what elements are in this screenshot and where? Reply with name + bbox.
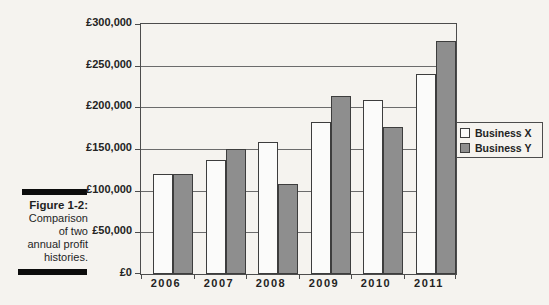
legend-label: Business Y — [475, 142, 531, 154]
legend-swatch-business-y — [460, 143, 470, 153]
caption-rule-bottom — [18, 269, 87, 275]
plot-area — [140, 23, 457, 275]
caption-line: Comparison — [0, 212, 88, 225]
y-tick-label: £0 — [120, 266, 132, 278]
caption-line: annual profit — [0, 238, 88, 251]
bar-business-x-2011 — [416, 74, 436, 274]
y-tick-mark — [135, 107, 141, 108]
bar-business-y-2006 — [173, 174, 193, 274]
caption-line: of two — [0, 225, 88, 238]
legend-label: Business X — [475, 127, 532, 139]
y-tick-mark — [135, 191, 141, 192]
y-tick-label: £300,000 — [86, 16, 132, 28]
bar-business-y-2010 — [383, 127, 403, 274]
bar-business-y-2008 — [278, 184, 298, 274]
y-tick-label: £50,000 — [92, 224, 132, 236]
bar-business-x-2010 — [363, 100, 383, 274]
x-tick-label: 2011 — [398, 277, 460, 289]
legend-item-business-y: Business Y — [460, 140, 539, 155]
bar-business-x-2008 — [258, 142, 278, 274]
y-tick-label: £250,000 — [86, 58, 132, 70]
y-tick-mark — [135, 273, 141, 274]
bar-business-x-2006 — [153, 174, 173, 274]
y-tick-mark — [135, 66, 141, 67]
y-tick-mark — [135, 232, 141, 233]
caption-line: histories. — [0, 251, 88, 264]
legend-swatch-business-x — [460, 128, 470, 138]
y-tick-label: £100,000 — [86, 183, 132, 195]
scanned-figure-page: Figure 1-2: Comparison of two annual pro… — [0, 0, 549, 305]
y-tick-mark — [135, 149, 141, 150]
gridline — [141, 107, 456, 108]
figure-caption: Figure 1-2: Comparison of two annual pro… — [0, 189, 92, 275]
bar-business-x-2007 — [206, 160, 226, 274]
chart-legend: Business X Business Y — [456, 122, 543, 158]
gridline — [141, 149, 456, 150]
bar-business-y-2007 — [226, 149, 246, 274]
gridline — [141, 66, 456, 67]
figure-caption-text: Figure 1-2: Comparison of two annual pro… — [0, 195, 92, 266]
y-tick-label: £150,000 — [86, 141, 132, 153]
y-tick-mark — [135, 24, 141, 25]
bar-business-y-2009 — [331, 96, 351, 274]
bar-business-y-2011 — [436, 41, 456, 274]
figure-number: Figure 1-2: — [0, 199, 88, 212]
legend-item-business-x: Business X — [460, 125, 539, 140]
bar-business-x-2009 — [311, 122, 331, 274]
y-tick-label: £200,000 — [86, 99, 132, 111]
